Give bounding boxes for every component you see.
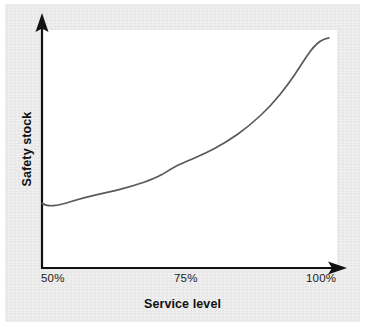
x-tick-label-100: 100%	[306, 272, 336, 284]
chart-figure: 50% 75% 100% Service level Safety stock	[0, 0, 365, 327]
x-tick-label-50: 50%	[41, 272, 65, 284]
safety-stock-curve	[42, 38, 329, 206]
x-axis-title: Service level	[0, 297, 365, 311]
y-axis-title: Safety stock	[20, 89, 34, 209]
x-tick-label-75: 75%	[174, 272, 198, 284]
